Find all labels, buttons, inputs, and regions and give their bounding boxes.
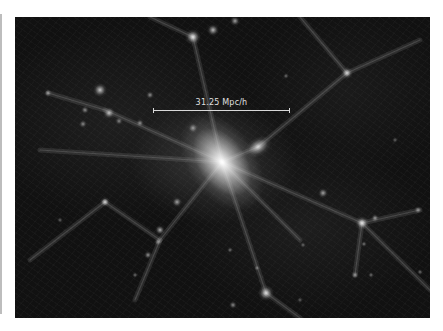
halo bbox=[227, 247, 233, 253]
halo bbox=[93, 83, 107, 97]
halo bbox=[254, 265, 260, 271]
halo bbox=[172, 197, 182, 207]
halo bbox=[371, 214, 379, 222]
halo bbox=[132, 272, 138, 278]
filament bbox=[347, 40, 420, 73]
halo bbox=[136, 119, 144, 127]
scale-bar-label: 31.25 Mpc/h bbox=[196, 98, 248, 107]
halo bbox=[103, 107, 115, 119]
halo bbox=[297, 297, 303, 303]
halo bbox=[155, 225, 165, 235]
halo bbox=[414, 206, 422, 214]
halo bbox=[81, 106, 89, 114]
filament bbox=[105, 202, 160, 240]
halo bbox=[355, 216, 369, 230]
halo bbox=[44, 89, 52, 97]
scale-bar bbox=[153, 110, 290, 111]
halo bbox=[351, 271, 359, 279]
filament bbox=[135, 240, 160, 300]
filament bbox=[30, 202, 105, 260]
halo bbox=[417, 269, 423, 275]
left-border-strip bbox=[0, 14, 2, 314]
halo bbox=[207, 24, 219, 36]
halo bbox=[146, 91, 154, 99]
halo bbox=[185, 29, 201, 45]
halo bbox=[100, 197, 110, 207]
halo bbox=[318, 188, 328, 198]
cosmic-web-image bbox=[15, 17, 430, 318]
halo bbox=[229, 301, 237, 309]
filament bbox=[362, 223, 430, 290]
halo bbox=[361, 241, 367, 247]
halo bbox=[154, 238, 162, 246]
halo bbox=[341, 67, 353, 79]
filament bbox=[300, 17, 347, 73]
halo bbox=[115, 117, 123, 125]
halo bbox=[300, 242, 306, 248]
halo bbox=[144, 251, 152, 259]
halo bbox=[57, 217, 63, 223]
halo bbox=[368, 272, 374, 278]
halo bbox=[283, 73, 289, 79]
halo bbox=[79, 120, 87, 128]
halo bbox=[258, 285, 274, 301]
halo bbox=[188, 123, 198, 133]
halo bbox=[392, 137, 398, 143]
